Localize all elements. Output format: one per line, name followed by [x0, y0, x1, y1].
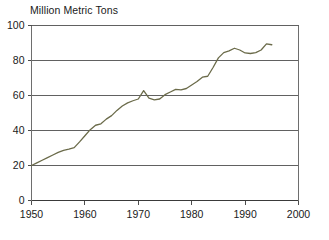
x-axis-tick-labels: 195019601970198019902000 [20, 208, 311, 220]
y-tick-label: 100 [7, 19, 25, 31]
y-tick-label: 60 [13, 89, 25, 101]
y-tick-label: 80 [13, 54, 25, 66]
x-tick-label: 1980 [180, 208, 204, 220]
x-tick-label: 1950 [20, 208, 44, 220]
y-tick-label: 0 [19, 194, 25, 206]
x-tick-label: 1990 [233, 208, 257, 220]
line-chart-plot: 020406080100 195019601970198019902000 [0, 0, 329, 240]
y-tick-label: 20 [13, 159, 25, 171]
x-tick-label: 2000 [287, 208, 311, 220]
x-tick-label: 1970 [127, 208, 151, 220]
x-tick-label: 1960 [73, 208, 97, 220]
y-axis-tick-labels: 020406080100 [7, 19, 25, 206]
axis-ticks [28, 26, 299, 205]
data-series-line [32, 44, 272, 166]
chart-container: Million Metric Tons 020406080100 1950196… [0, 0, 329, 240]
y-tick-label: 40 [13, 124, 25, 136]
